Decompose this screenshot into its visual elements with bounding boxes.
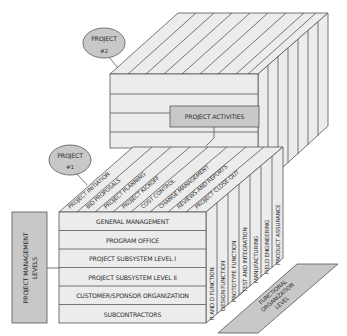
function-label: TEST AND INTEGRATION	[242, 227, 248, 293]
level-label: SUBCONTRACTORS	[104, 311, 162, 318]
project-activities-label: PROJECT ACTIVITIES	[185, 113, 245, 121]
level-label: GENERAL MANAGEMENT	[96, 218, 169, 225]
project-matrix-diagram: PROJECT ACTIVITIES PROJECT #2 PROJECT IN…	[0, 0, 347, 336]
management-levels-label-line2: LEVELS	[31, 257, 38, 279]
front-cube: PROJECT INITIATION BID PROPOSALS PROJECT…	[59, 147, 283, 323]
project-2-label: PROJECT	[91, 35, 117, 43]
level-label: CUSTOMER/SPONSOR ORGANIZATION	[76, 292, 189, 299]
function-label: MANUFACTURING	[253, 236, 259, 283]
project-1-ellipse	[49, 145, 91, 175]
function-label: PRODUCT ASSURANCE	[275, 204, 281, 265]
function-label: FIELD ENGINEERING	[264, 220, 270, 274]
level-label: PROJECT SUBSYSTEM LEVEL I	[89, 255, 176, 263]
project-1-number: #1	[66, 164, 75, 170]
management-levels-box	[12, 212, 47, 323]
function-label: DESIGN FUNCTION	[220, 261, 226, 311]
project-1-label: PROJECT	[57, 152, 83, 160]
management-levels-callout: PROJECT MANAGEMENT LEVELS	[12, 212, 59, 323]
project-2-number: #2	[100, 48, 108, 54]
function-label: PROTOTYPE FUNCTION	[231, 241, 237, 302]
level-label: PROGRAM OFFICE	[106, 237, 159, 244]
function-label: R AND D FUNCTION	[209, 267, 215, 320]
management-levels-label-line1: PROJECT MANAGEMENT	[22, 232, 30, 303]
project-2-bubble: PROJECT #2	[83, 28, 125, 68]
level-label: PROJECT SUBSYSTEM LEVEL II	[88, 274, 177, 282]
project-1-bubble: PROJECT #1	[49, 145, 91, 185]
